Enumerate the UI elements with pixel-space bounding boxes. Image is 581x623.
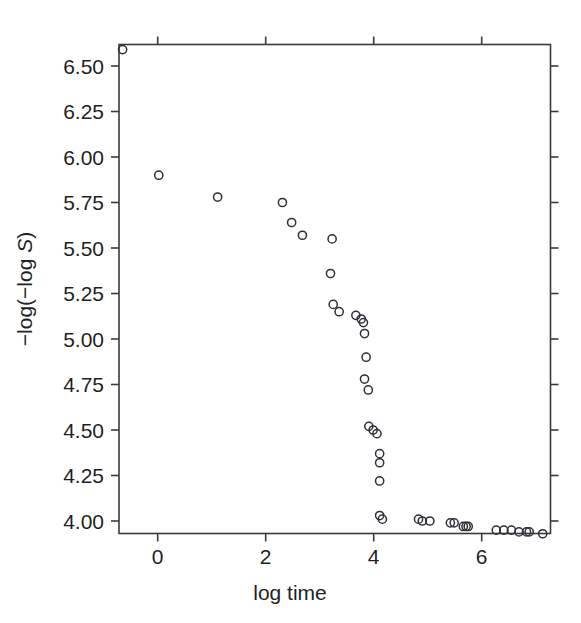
data-point bbox=[329, 300, 337, 308]
data-point bbox=[298, 231, 306, 239]
y-tick-label: 5.50 bbox=[63, 237, 104, 260]
data-point bbox=[362, 353, 370, 361]
data-point bbox=[328, 235, 336, 243]
y-axis-ticks bbox=[111, 66, 559, 521]
y-tick-label: 4.00 bbox=[63, 510, 104, 533]
y-tick-label: 4.75 bbox=[63, 373, 104, 396]
data-point bbox=[364, 386, 372, 394]
y-tick-label: 5.00 bbox=[63, 328, 104, 351]
y-axis-title: −log(−log S) bbox=[13, 232, 36, 346]
x-tick-label: 6 bbox=[476, 545, 488, 568]
data-points-layer bbox=[119, 46, 547, 538]
x-tick-label: 0 bbox=[152, 545, 164, 568]
data-point bbox=[376, 450, 384, 458]
data-point bbox=[214, 193, 222, 201]
data-point bbox=[288, 218, 296, 226]
y-tick-label: 5.25 bbox=[63, 282, 104, 305]
scatter-plot-figure: 4.004.254.504.755.005.255.505.756.006.25… bbox=[0, 0, 581, 623]
data-point bbox=[360, 329, 368, 337]
y-tick-label: 6.50 bbox=[63, 55, 104, 78]
plot-box-frame bbox=[119, 45, 551, 534]
y-tick-label: 6.00 bbox=[63, 146, 104, 169]
x-tick-label: 4 bbox=[368, 545, 380, 568]
x-tick-label: 2 bbox=[260, 545, 272, 568]
x-axis-title: log time bbox=[253, 581, 327, 604]
y-tick-label: 4.25 bbox=[63, 464, 104, 487]
x-axis-ticks bbox=[158, 37, 482, 542]
data-point bbox=[376, 459, 384, 467]
data-point bbox=[278, 198, 286, 206]
data-point bbox=[376, 477, 384, 485]
x-axis-tick-labels: 0246 bbox=[152, 545, 488, 568]
data-point bbox=[335, 308, 343, 316]
y-axis-tick-labels: 4.004.254.504.755.005.255.505.756.006.25… bbox=[63, 55, 104, 533]
data-point bbox=[326, 269, 334, 277]
data-point bbox=[360, 375, 368, 383]
y-tick-label: 5.75 bbox=[63, 191, 104, 214]
y-tick-label: 4.50 bbox=[63, 419, 104, 442]
y-tick-label: 6.25 bbox=[63, 100, 104, 123]
data-point bbox=[155, 171, 163, 179]
plot-canvas: 4.004.254.504.755.005.255.505.756.006.25… bbox=[0, 0, 581, 623]
